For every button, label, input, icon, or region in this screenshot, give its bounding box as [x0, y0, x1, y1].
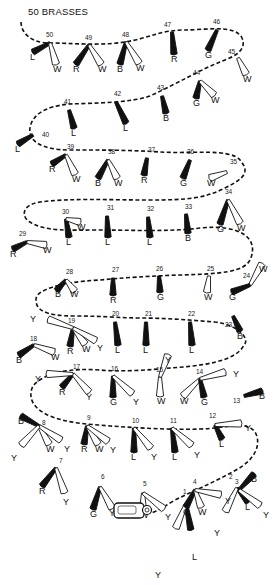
dark-tassel-icon [161, 96, 170, 114]
brass-number: 33 [185, 203, 193, 210]
tassel-color-label: Y [263, 510, 269, 520]
brass-number: 44 [193, 69, 201, 76]
tassel-color-label: W [136, 63, 145, 73]
tassel-color-label: Y [64, 444, 70, 454]
brass-number: 9 [87, 414, 91, 421]
tassel-color-label: B [251, 474, 257, 484]
brass-number: 46 [213, 18, 221, 25]
light-tassel-icon [125, 41, 142, 65]
tassel-color-label: Y [86, 392, 92, 402]
tassel-color-label: W [237, 223, 246, 233]
tassel-color-label: W [51, 352, 60, 362]
brass-number: 42 [114, 90, 122, 97]
light-tassel-icon [215, 420, 242, 427]
dark-tassel-icon [73, 44, 90, 66]
tassel-color-label: R [39, 486, 46, 496]
tassel-color-label: B [95, 178, 101, 188]
brass-number: 47 [164, 21, 172, 28]
light-tassel-icon [107, 159, 121, 179]
tassel-color-label: B [163, 113, 169, 123]
brass-number: 35 [230, 158, 238, 165]
brass-number: 48 [122, 31, 130, 38]
dark-tassel-icon [115, 101, 129, 124]
tassel-color-label: B [18, 416, 24, 426]
dark-tassel-icon [110, 278, 116, 296]
brass-number: 21 [145, 310, 153, 317]
light-tassel-icon [65, 154, 79, 175]
dark-tassel-icon [185, 214, 192, 234]
tassel-color-label: L [115, 345, 120, 355]
brass-number: 29 [19, 230, 27, 237]
tassel-color-label: B [55, 289, 61, 299]
tassel-color-label: Y [151, 452, 157, 462]
tassel-color-label: B [117, 64, 123, 74]
tassel-color-label: W [198, 507, 207, 517]
brass-number: 12 [209, 412, 217, 419]
brass-number: 31 [107, 204, 115, 211]
brass-number: 24 [243, 272, 251, 279]
tassel-color-label: W [72, 174, 81, 184]
tassel-color-label: R [10, 249, 17, 259]
tassel-color-label: G [217, 224, 224, 234]
tassel-color-label: W [95, 444, 104, 454]
tassel-color-label: Y [11, 453, 17, 463]
brass-number: 13 [233, 397, 241, 404]
brass-number: 38 [108, 148, 116, 155]
tassel-color-label: W [259, 264, 268, 274]
light-tassel-icon [55, 468, 68, 494]
brass-number: 37 [148, 146, 156, 153]
strap-drawing: 1234567891011121314151617181920212223242… [0, 0, 276, 585]
light-tassel-icon [237, 57, 250, 75]
tassel-color-label: L [105, 237, 110, 247]
tassel-color-label: W [43, 245, 52, 255]
brass-number: 45 [228, 48, 236, 55]
tassel-color-label: L [219, 439, 224, 449]
tassel-color-label: W [77, 222, 86, 232]
tassel-color-label: G [180, 178, 187, 188]
brass-number: 40 [42, 131, 50, 138]
tassel-color-label: Y [165, 512, 171, 522]
tassel-color-label: Y [110, 445, 116, 455]
tassel-color-label: W [46, 444, 55, 454]
tassel-color-label: G [183, 507, 190, 517]
tassel-color-label: W [204, 292, 213, 302]
brass-number: 30 [62, 208, 70, 215]
tassel-color-label: Y [165, 355, 171, 365]
brass-number: 17 [73, 363, 81, 370]
tassel-color-label: B [185, 233, 191, 243]
brass-number: 1 [183, 488, 187, 495]
color-label-group: LYLYBYGWYWYGYRYBWYYRWYLYLYLYBWGYWYGYRYYB… [10, 50, 269, 580]
brass-number: 32 [147, 205, 155, 212]
brass-number: 5 [143, 480, 147, 487]
dark-tassel-icon [157, 276, 163, 293]
tassel-color-label: Y [63, 497, 69, 507]
tassel-color-label: L [123, 123, 128, 133]
light-tassel-icon [49, 43, 60, 66]
light-tassel-icon [88, 44, 104, 66]
tassel-color-label: W [211, 95, 220, 105]
brass-number: 11 [170, 417, 177, 424]
dark-tassel-icon [205, 29, 218, 51]
brass-number: 34 [225, 188, 233, 195]
dark-tassel-icon [141, 158, 149, 176]
tassel-color-label: B [16, 355, 22, 365]
tassel-color-label: W [180, 396, 189, 406]
brass-number: 2 [229, 473, 233, 480]
dark-tassel-icon [171, 32, 178, 55]
tassel-color-label: W [114, 178, 123, 188]
tassel-color-label: L [30, 52, 35, 62]
brass-number: 18 [30, 335, 38, 342]
brass-number: 3 [235, 478, 239, 485]
tassel-color-label: L [147, 237, 152, 247]
brass-number: 50 [46, 31, 54, 38]
tassel-color-label: G [205, 50, 212, 60]
tassel-color-label: Y [233, 369, 239, 379]
tassel-color-label: Y [97, 343, 103, 353]
tassel-color-label: R [67, 346, 74, 356]
tassel-color-label: Y [30, 314, 36, 324]
light-tassel-icon [156, 377, 163, 397]
tassel-color-label: Y [245, 423, 251, 433]
tassel-color-label: R [81, 444, 88, 454]
brass-number: 8 [42, 419, 46, 426]
tassel-color-label: Y [155, 570, 161, 580]
